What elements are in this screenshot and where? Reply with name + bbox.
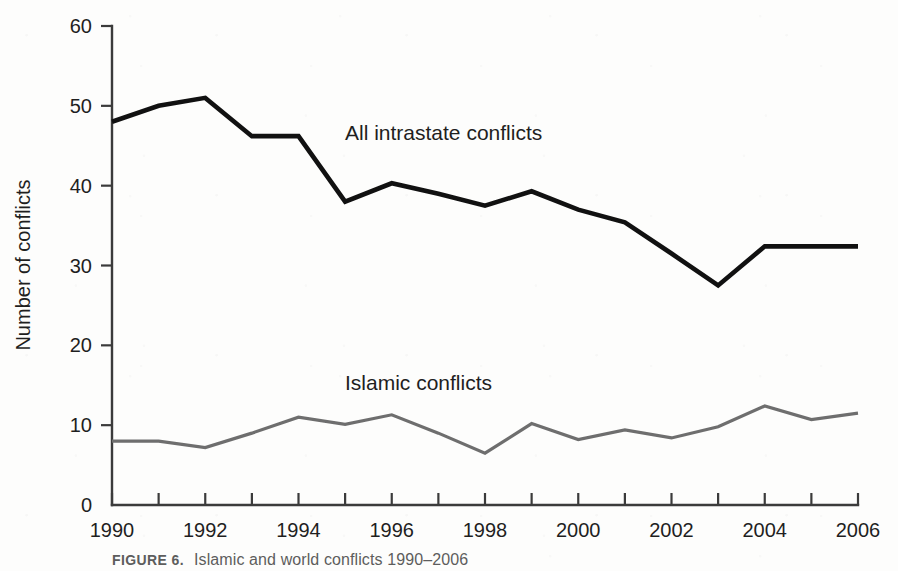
y-axis-title: Number of conflicts [12,179,34,350]
y-tick-label: 0 [81,494,92,516]
x-tick-label: 1994 [276,519,321,541]
series-line-islamic [112,406,858,453]
figure-caption-label: FIGURE 6. [112,552,184,568]
y-tick-label: 60 [70,15,92,37]
y-tick-label: 30 [70,255,92,277]
x-tick-label: 2004 [743,519,788,541]
x-tick-label: 2000 [556,519,601,541]
series-label-all-intrastate: All intrastate conflicts [345,121,542,144]
y-tick-label: 40 [70,175,92,197]
x-tick-label: 1992 [183,519,228,541]
y-tick-label: 20 [70,334,92,356]
tick-labels: 0102030405060199019921994199619982000200… [70,15,881,541]
x-tick-label: 1996 [370,519,415,541]
x-tick-label: 1990 [90,519,135,541]
x-tick-label: 2002 [649,519,694,541]
y-tick-label: 10 [70,414,92,436]
data-series [112,98,858,453]
figure-container: 0102030405060199019921994199619982000200… [0,0,898,571]
y-tick-label: 50 [70,95,92,117]
series-label-islamic: Islamic conflicts [345,371,492,394]
figure-caption: FIGURE 6.Islamic and world conflicts 199… [112,551,468,569]
x-tick-label: 2006 [836,519,881,541]
x-tick-label: 1998 [463,519,508,541]
line-chart: 0102030405060199019921994199619982000200… [0,0,898,545]
figure-caption-body: Islamic and world conflicts 1990–2006 [194,551,468,568]
